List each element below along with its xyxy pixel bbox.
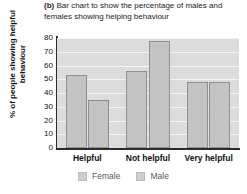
y-axis-tick-labels: 80706050403020100 — [36, 38, 53, 148]
plot-wrap — [57, 38, 239, 148]
bar-female-not-helpful — [126, 71, 147, 148]
legend-label: Female — [92, 172, 120, 181]
y-axis-title: % of people showing helpful behaviour — [8, 4, 30, 124]
bar-male-helpful — [88, 100, 109, 148]
bar-female-helpful — [66, 75, 87, 148]
y-axis-tick-label: 50 — [36, 75, 53, 83]
bar-female-very-helpful — [187, 82, 208, 148]
chart-title: (b) Bar chart to show the percentage of … — [44, 1, 244, 22]
legend-item-male[interactable]: Male — [136, 172, 168, 181]
legend-label: Male — [150, 172, 168, 181]
y-axis-tick-label: 70 — [36, 48, 53, 56]
x-axis-line — [56, 148, 240, 150]
y-axis-tick-label: 30 — [36, 103, 53, 111]
chart-legend: FemaleMale — [0, 172, 247, 181]
y-axis-tick-label: 10 — [36, 130, 53, 138]
bar-male-very-helpful — [209, 82, 230, 148]
y-axis-tick-label: 80 — [36, 34, 53, 42]
x-axis-label-helpful: Helpful — [57, 152, 118, 164]
gridline — [57, 38, 239, 39]
chart-title-text: Bar chart to show the percentage of male… — [44, 1, 222, 21]
legend-item-female[interactable]: Female — [78, 172, 120, 181]
y-axis-tick-label: 40 — [36, 89, 53, 97]
legend-swatch-icon — [136, 172, 145, 181]
plot-area — [57, 38, 239, 148]
bar-male-not-helpful — [149, 41, 170, 148]
y-axis-tick-label: 0 — [36, 144, 53, 152]
x-axis-label-not-helpful: Not helpful — [118, 152, 179, 164]
chart-title-label: (b) — [44, 1, 54, 10]
y-axis-tick-label: 60 — [36, 62, 53, 70]
x-axis-labels: HelpfulNot helpfulVery helpful — [57, 152, 243, 166]
legend-swatch-icon — [78, 172, 87, 181]
x-axis-label-very-helpful: Very helpful — [178, 152, 239, 164]
y-axis-tick-label: 20 — [36, 117, 53, 125]
